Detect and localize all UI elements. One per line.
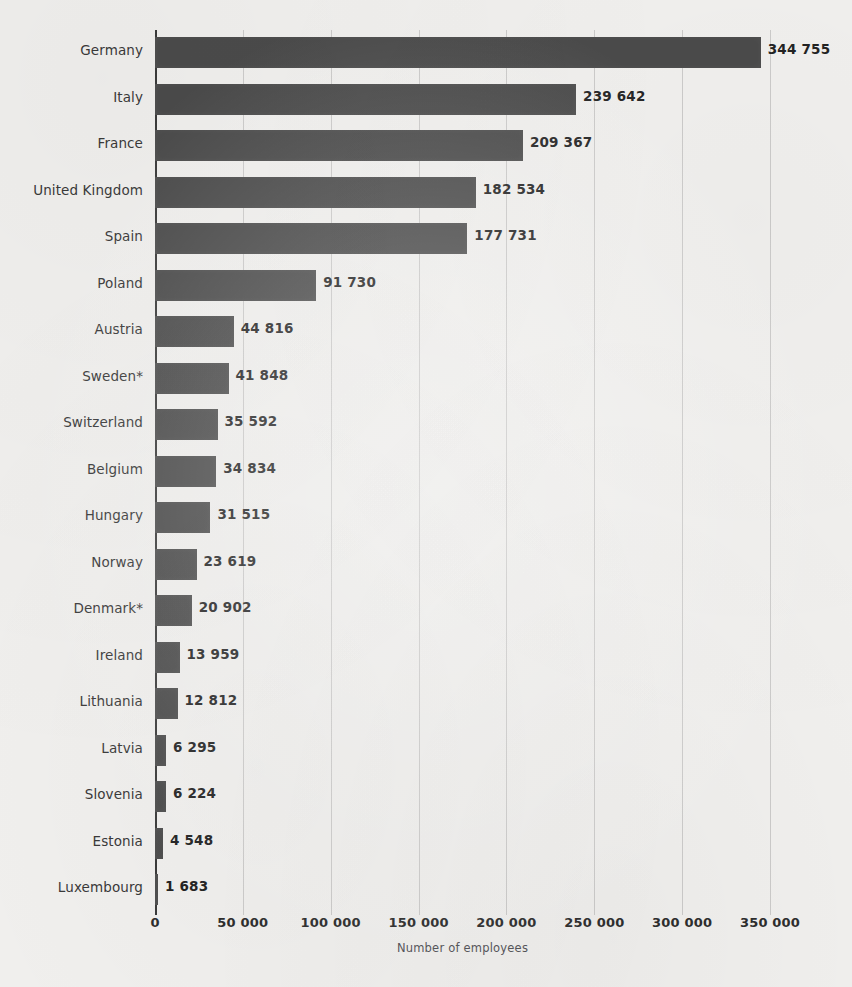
bar-row: Austria44 816	[155, 309, 852, 356]
bar	[155, 456, 216, 487]
bar-row: Estonia4 548	[155, 821, 852, 868]
bar-row: Luxembourg1 683	[155, 867, 852, 914]
plot-area: Germany344 755Italy239 642France209 367U…	[155, 30, 770, 915]
bar	[155, 409, 218, 440]
bar	[155, 177, 476, 208]
bar-row: Poland91 730	[155, 263, 852, 310]
category-label: Hungary	[85, 507, 143, 523]
bar-row: Sweden*41 848	[155, 356, 852, 403]
bar-value-label: 34 834	[223, 460, 276, 476]
bar	[155, 363, 229, 394]
bar	[155, 270, 316, 301]
x-tick-label: 50 000	[217, 915, 268, 930]
bar-row: Germany344 755	[155, 30, 852, 77]
bar-row: Lithuania12 812	[155, 681, 852, 728]
bar-row: United Kingdom182 534	[155, 170, 852, 217]
bar-value-label: 20 902	[199, 599, 252, 615]
bar-value-label: 177 731	[474, 227, 536, 243]
category-label: Denmark*	[73, 600, 143, 616]
category-label: Lithuania	[80, 693, 143, 709]
bar	[155, 549, 197, 580]
bar-row: Latvia6 295	[155, 728, 852, 775]
bar	[155, 781, 166, 812]
bar-row: Slovenia6 224	[155, 774, 852, 821]
x-tick-label: 100 000	[301, 915, 361, 930]
bar	[155, 642, 180, 673]
bar	[155, 874, 158, 905]
horizontal-bar-chart: Germany344 755Italy239 642France209 367U…	[0, 0, 852, 987]
bar	[155, 316, 234, 347]
category-label: Italy	[113, 89, 143, 105]
x-tick-label: 350 000	[740, 915, 800, 930]
bar	[155, 688, 178, 719]
bar-value-label: 239 642	[583, 88, 645, 104]
x-tick-label: 200 000	[476, 915, 536, 930]
bar-row: Italy239 642	[155, 77, 852, 124]
bar-value-label: 209 367	[530, 134, 592, 150]
bar-row: Denmark*20 902	[155, 588, 852, 635]
x-tick-label: 300 000	[652, 915, 712, 930]
bar	[155, 595, 192, 626]
bar	[155, 828, 163, 859]
category-label: France	[98, 135, 144, 151]
bars-layer: Germany344 755Italy239 642France209 367U…	[155, 30, 770, 915]
category-label: Sweden*	[82, 368, 143, 384]
bar-row: Belgium34 834	[155, 449, 852, 496]
bar	[155, 37, 761, 68]
category-label: Switzerland	[63, 414, 143, 430]
bar-row: Switzerland35 592	[155, 402, 852, 449]
bar	[155, 735, 166, 766]
bar-value-label: 23 619	[204, 553, 257, 569]
bar-value-label: 44 816	[241, 320, 294, 336]
bar-value-label: 6 295	[173, 739, 216, 755]
category-label: Norway	[91, 554, 143, 570]
bar-value-label: 12 812	[185, 692, 238, 708]
bar	[155, 84, 576, 115]
bar-row: Ireland13 959	[155, 635, 852, 682]
bar-value-label: 31 515	[217, 506, 270, 522]
category-label: Germany	[80, 42, 143, 58]
bar-row: Hungary31 515	[155, 495, 852, 542]
category-label: Latvia	[101, 740, 143, 756]
bar-value-label: 35 592	[225, 413, 278, 429]
bar	[155, 130, 523, 161]
x-tick-label: 150 000	[388, 915, 448, 930]
bar-value-label: 182 534	[483, 181, 545, 197]
bar-row: Norway23 619	[155, 542, 852, 589]
category-label: Slovenia	[85, 786, 143, 802]
category-label: United Kingdom	[33, 182, 143, 198]
x-tick-label: 250 000	[564, 915, 624, 930]
bar-row: France209 367	[155, 123, 852, 170]
bar-value-label: 1 683	[165, 878, 208, 894]
category-label: Ireland	[96, 647, 143, 663]
category-label: Luxembourg	[58, 879, 143, 895]
x-axis-title: Number of employees	[155, 941, 770, 955]
category-label: Belgium	[87, 461, 143, 477]
category-label: Spain	[105, 228, 143, 244]
bar	[155, 223, 467, 254]
category-label: Poland	[97, 275, 143, 291]
bar-value-label: 91 730	[323, 274, 376, 290]
bar-value-label: 13 959	[187, 646, 240, 662]
bar-value-label: 6 224	[173, 785, 216, 801]
bar	[155, 502, 210, 533]
bar-value-label: 344 755	[768, 41, 830, 57]
bar-row: Spain177 731	[155, 216, 852, 263]
bar-value-label: 4 548	[170, 832, 213, 848]
bar-value-label: 41 848	[236, 367, 289, 383]
x-axis: Number of employees 050 000100 000150 00…	[155, 915, 770, 975]
category-label: Estonia	[93, 833, 143, 849]
category-label: Austria	[95, 321, 143, 337]
x-tick-label: 0	[150, 915, 159, 930]
